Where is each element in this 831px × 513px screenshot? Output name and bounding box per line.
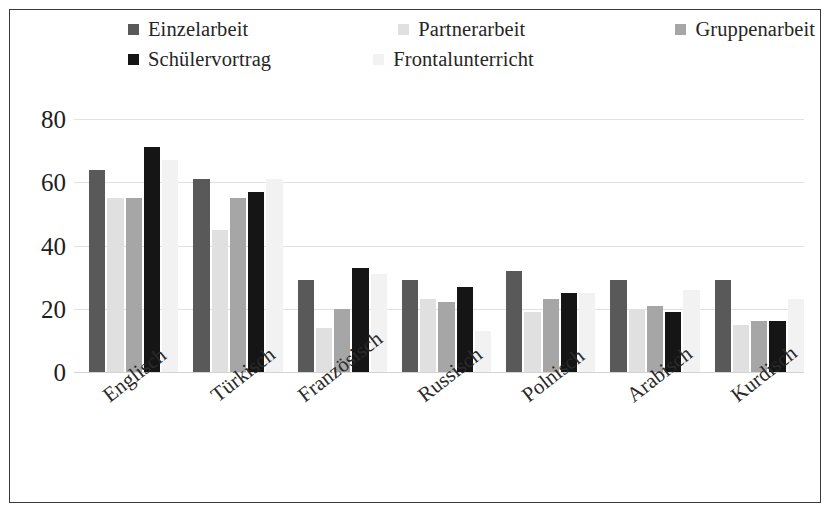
legend-item-partnerarbeit[interactable]: Partnerarbeit — [398, 19, 525, 40]
bar-türkisch-einzelarbeit[interactable] — [193, 179, 209, 372]
chart-legend: EinzelarbeitPartnerarbeitGruppenarbeit S… — [0, 14, 831, 74]
bar-französisch-frontalunterricht[interactable] — [371, 274, 387, 372]
bar-englisch-schülervortrag[interactable] — [144, 147, 160, 372]
bar-englisch-einzelarbeit[interactable] — [89, 170, 105, 372]
y-axis-tick-label: 40 — [12, 233, 66, 258]
bar-arabisch-partnerarbeit[interactable] — [629, 309, 645, 372]
bar-chart-figure: EinzelarbeitPartnerarbeitGruppenarbeit S… — [0, 0, 831, 513]
legend-label: Einzelarbeit — [148, 19, 248, 40]
legend-swatch-icon — [128, 54, 139, 65]
legend-row-top: EinzelarbeitPartnerarbeitGruppenarbeit — [128, 14, 771, 44]
bar-group-polnisch — [491, 119, 595, 372]
bar-group-kurdisch — [700, 119, 804, 372]
bar-group-russisch — [387, 119, 491, 372]
bar-türkisch-gruppenarbeit[interactable] — [230, 198, 246, 372]
bar-kurdisch-einzelarbeit[interactable] — [715, 280, 731, 372]
legend-swatch-icon — [128, 24, 139, 35]
y-axis-tick-label: 20 — [12, 296, 66, 321]
bar-englisch-partnerarbeit[interactable] — [107, 198, 123, 372]
legend-label: Gruppenarbeit — [695, 19, 815, 40]
legend-item-gruppenarbeit[interactable]: Gruppenarbeit — [675, 19, 815, 40]
legend-item-frontalunterricht[interactable]: Frontalunterricht — [373, 49, 534, 70]
legend-swatch-icon — [675, 24, 686, 35]
bar-französisch-einzelarbeit[interactable] — [298, 280, 314, 372]
legend-item-schülervortrag[interactable]: Schülervortrag — [128, 49, 271, 70]
legend-swatch-icon — [398, 24, 409, 35]
bar-russisch-partnerarbeit[interactable] — [420, 299, 436, 372]
x-axis: EnglischTürkischFranzösischRussischPolni… — [74, 372, 804, 492]
bar-group-arabisch — [595, 119, 699, 372]
bar-türkisch-frontalunterricht[interactable] — [266, 179, 282, 372]
bar-englisch-frontalunterricht[interactable] — [162, 160, 178, 372]
y-axis-tick-label: 0 — [12, 360, 66, 385]
legend-item-einzelarbeit[interactable]: Einzelarbeit — [128, 19, 248, 40]
legend-row-bottom: SchülervortragFrontalunterricht — [128, 44, 771, 74]
y-axis: 806040200 — [8, 119, 66, 372]
legend-label: Frontalunterricht — [393, 49, 534, 70]
legend-label: Schülervortrag — [148, 49, 271, 70]
bar-arabisch-einzelarbeit[interactable] — [610, 280, 626, 372]
bar-englisch-gruppenarbeit[interactable] — [126, 198, 142, 372]
bar-polnisch-partnerarbeit[interactable] — [524, 312, 540, 372]
bar-groups-container — [74, 119, 804, 372]
bar-russisch-einzelarbeit[interactable] — [402, 280, 418, 372]
bar-kurdisch-partnerarbeit[interactable] — [733, 325, 749, 372]
bar-polnisch-einzelarbeit[interactable] — [506, 271, 522, 372]
y-axis-tick-label: 60 — [12, 170, 66, 195]
bar-group-türkisch — [178, 119, 282, 372]
bar-türkisch-partnerarbeit[interactable] — [212, 230, 228, 372]
bar-group-englisch — [74, 119, 178, 372]
legend-label: Partnerarbeit — [418, 19, 525, 40]
legend-swatch-icon — [373, 54, 384, 65]
y-axis-tick-label: 80 — [12, 107, 66, 132]
